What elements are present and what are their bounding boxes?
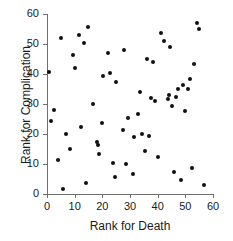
data-point xyxy=(121,128,125,132)
plot-data-area xyxy=(47,14,213,194)
data-point xyxy=(151,60,155,64)
x-tick-label: 40 xyxy=(146,200,170,213)
data-point xyxy=(159,31,163,35)
data-point xyxy=(82,41,86,45)
data-point xyxy=(138,90,142,94)
x-tick-mark xyxy=(47,194,48,198)
data-point xyxy=(111,161,115,165)
x-tick-label: 50 xyxy=(173,200,197,213)
data-point xyxy=(167,93,171,97)
data-point xyxy=(96,143,100,147)
scatter-plot-figure: 0102030405060 0102030405060 Rank for Dea… xyxy=(0,0,233,241)
data-point xyxy=(77,33,81,37)
data-point xyxy=(106,51,110,55)
x-tick-label: 10 xyxy=(63,200,87,213)
data-point xyxy=(195,21,199,25)
data-point xyxy=(73,66,77,70)
data-point xyxy=(126,116,130,120)
data-point xyxy=(140,132,144,136)
x-tick-mark xyxy=(185,194,186,198)
data-point xyxy=(172,170,176,174)
x-tick-label: 20 xyxy=(90,200,114,213)
x-tick-label: 0 xyxy=(35,200,59,213)
data-point xyxy=(183,109,187,113)
data-point xyxy=(147,134,151,138)
data-point xyxy=(136,112,140,116)
x-tick-mark xyxy=(158,194,159,198)
x-tick-label: 60 xyxy=(201,200,225,213)
data-point xyxy=(202,183,206,187)
data-point xyxy=(100,121,104,125)
x-tick-mark xyxy=(130,194,131,198)
data-point xyxy=(179,178,183,182)
y-tick-mark xyxy=(43,194,47,195)
data-point xyxy=(64,132,68,136)
data-point xyxy=(86,25,90,29)
data-point xyxy=(52,108,56,112)
data-point xyxy=(108,71,112,75)
data-point xyxy=(68,147,72,151)
data-point xyxy=(47,70,51,74)
data-point xyxy=(170,104,174,108)
x-tick-mark xyxy=(75,194,76,198)
data-point xyxy=(190,166,194,170)
data-point xyxy=(61,187,65,191)
x-tick-mark xyxy=(213,194,214,198)
x-tick-label: 30 xyxy=(118,200,142,213)
y-axis-title: Rank for Complication xyxy=(19,15,33,195)
data-point xyxy=(166,97,170,101)
data-point xyxy=(91,102,95,106)
data-point xyxy=(181,83,185,87)
data-point xyxy=(186,87,190,91)
data-point xyxy=(124,162,128,166)
x-axis-title: Rank for Death xyxy=(47,219,213,233)
data-point xyxy=(131,172,135,176)
x-tick-mark xyxy=(102,194,103,198)
